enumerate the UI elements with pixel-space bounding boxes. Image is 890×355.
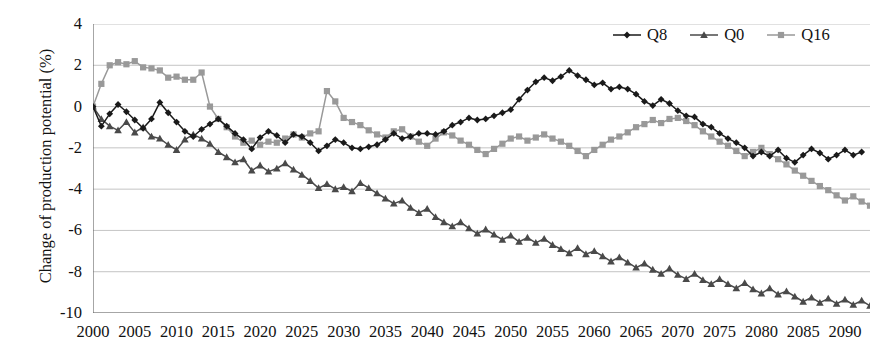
- x-axis-tick-label: 2060: [564, 322, 624, 342]
- square-marker: [466, 142, 472, 148]
- square-marker: [583, 153, 589, 159]
- x-axis-tick-label: 2075: [690, 322, 750, 342]
- square-marker: [483, 151, 489, 157]
- series-line: [93, 61, 870, 206]
- triangle-marker: [766, 284, 774, 291]
- series-canvas: [93, 24, 870, 313]
- square-marker: [265, 139, 271, 145]
- legend-item-q0[interactable]: Q0: [689, 27, 744, 44]
- diamond-marker: [365, 143, 372, 150]
- square-marker: [766, 28, 796, 42]
- square-marker: [499, 141, 505, 147]
- triangle-marker: [540, 235, 548, 242]
- production-potential-chart: Change of production potential (%) 420-2…: [0, 0, 890, 355]
- diamond-marker: [850, 152, 857, 159]
- square-marker: [374, 131, 380, 137]
- triangle-marker: [666, 265, 674, 272]
- triangle-marker: [440, 218, 448, 225]
- diamond-marker: [616, 84, 623, 91]
- square-marker: [366, 127, 372, 133]
- x-axis-tick-label: 2090: [815, 322, 875, 342]
- diamond-marker: [624, 32, 631, 39]
- square-marker: [516, 133, 522, 139]
- triangle-marker: [607, 258, 615, 265]
- diamond-marker: [574, 72, 581, 79]
- square-marker: [666, 116, 672, 122]
- triangle-marker: [507, 232, 515, 239]
- triangle-marker: [791, 293, 799, 300]
- square-marker: [717, 139, 723, 145]
- series-line: [93, 107, 870, 306]
- triangle-marker: [707, 280, 715, 287]
- y-axis-title: Change of production potential (%): [36, 1, 60, 331]
- triangle-marker: [758, 290, 766, 297]
- square-marker: [600, 142, 606, 148]
- square-marker: [424, 143, 430, 149]
- triangle-marker: [724, 280, 732, 287]
- triangle-marker: [624, 259, 632, 266]
- square-marker: [725, 143, 731, 149]
- square-marker: [850, 193, 856, 199]
- diamond-marker: [340, 139, 347, 146]
- square-marker: [357, 122, 363, 128]
- x-axis-tick-label: 2010: [147, 322, 207, 342]
- square-marker: [859, 198, 865, 204]
- square-marker: [558, 139, 564, 145]
- triangle-marker: [198, 135, 206, 142]
- diamond-marker: [733, 139, 740, 146]
- legend-item-q8[interactable]: Q8: [612, 27, 667, 44]
- x-axis-tick-label: 2015: [188, 322, 248, 342]
- diamond-marker: [624, 86, 631, 93]
- square-marker: [190, 77, 196, 83]
- square-marker: [399, 126, 405, 132]
- square-marker: [123, 61, 129, 67]
- series-q0: [93, 103, 870, 309]
- triangle-marker: [799, 298, 807, 305]
- x-axis-tick-label: 2000: [63, 322, 123, 342]
- square-marker: [775, 156, 781, 162]
- square-marker: [324, 88, 330, 94]
- square-marker: [474, 147, 480, 153]
- triangle-marker: [365, 184, 373, 191]
- triangle-marker: [532, 239, 540, 246]
- triangle-marker: [357, 179, 365, 186]
- square-marker: [140, 64, 146, 70]
- triangle-marker: [733, 284, 741, 291]
- triangle-marker: [323, 180, 331, 187]
- square-marker: [708, 133, 714, 139]
- x-axis-tick-label: 2025: [272, 322, 332, 342]
- triangle-marker: [340, 183, 348, 190]
- triangle-marker: [123, 118, 131, 125]
- square-marker: [867, 203, 870, 209]
- square-marker: [449, 132, 455, 138]
- triangle-marker: [641, 260, 649, 267]
- square-marker: [416, 139, 422, 145]
- diamond-marker: [549, 77, 556, 84]
- square-marker: [625, 129, 631, 135]
- triangle-marker: [181, 136, 189, 143]
- diamond-marker: [583, 76, 590, 83]
- square-marker: [199, 69, 205, 75]
- triangle-marker: [423, 205, 431, 212]
- x-axis-tick-label: 2005: [105, 322, 165, 342]
- square-marker: [742, 153, 748, 159]
- square-marker: [541, 131, 547, 137]
- legend-item-q16[interactable]: Q16: [766, 27, 829, 44]
- square-marker: [165, 75, 171, 81]
- square-marker: [792, 167, 798, 173]
- diamond-marker: [399, 135, 406, 142]
- triangle-marker: [657, 270, 665, 277]
- square-marker: [332, 98, 338, 104]
- square-marker: [107, 62, 113, 68]
- triangle-marker: [783, 288, 791, 295]
- legend-label: Q0: [724, 27, 744, 44]
- x-axis-tick-label: 2040: [397, 322, 457, 342]
- triangle-marker: [590, 247, 598, 254]
- x-axis-tick-label: 2030: [314, 322, 374, 342]
- square-marker: [808, 178, 814, 184]
- diamond-marker: [725, 135, 732, 142]
- triangle-marker: [833, 300, 841, 307]
- square-marker: [458, 138, 464, 144]
- diamond-marker: [357, 145, 364, 152]
- triangle-marker: [716, 275, 724, 282]
